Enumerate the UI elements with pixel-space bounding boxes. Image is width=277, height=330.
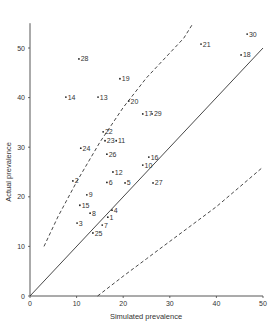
x-axis-title: Simulated prevalence bbox=[110, 312, 182, 321]
data-point: 19 bbox=[119, 75, 130, 82]
lower-bound-line bbox=[98, 167, 263, 296]
data-point: 5 bbox=[124, 179, 131, 186]
point-marker bbox=[92, 232, 94, 234]
data-point: 30 bbox=[246, 31, 257, 38]
point-label: 10 bbox=[145, 162, 153, 169]
data-point: 1 bbox=[107, 214, 114, 221]
data-point: 18 bbox=[240, 51, 251, 58]
point-label: 23 bbox=[107, 137, 115, 144]
data-point: 14 bbox=[65, 94, 76, 101]
point-label: 20 bbox=[131, 98, 139, 105]
upper-bound-line bbox=[44, 23, 193, 246]
data-point: 17 bbox=[142, 110, 153, 117]
data-point: 28 bbox=[78, 55, 89, 62]
data-point: 7 bbox=[101, 222, 108, 229]
point-label: 4 bbox=[114, 207, 118, 214]
point-label: 2 bbox=[75, 177, 79, 184]
point-marker bbox=[115, 140, 117, 142]
point-label: 3 bbox=[79, 220, 83, 227]
scatter-chart: 0102030405001020304050 12345678910111213… bbox=[0, 0, 277, 330]
y-tick-label: 30 bbox=[17, 144, 25, 151]
point-label: 19 bbox=[122, 75, 130, 82]
point-marker bbox=[111, 209, 113, 211]
point-label: 15 bbox=[82, 202, 90, 209]
x-tick-label: 10 bbox=[73, 300, 81, 307]
point-label: 5 bbox=[127, 179, 131, 186]
point-marker bbox=[104, 140, 106, 142]
point-label: 18 bbox=[243, 51, 251, 58]
data-points: 1234567891011121314151617181920212223242… bbox=[65, 31, 257, 237]
data-point: 16 bbox=[148, 154, 159, 161]
x-tick-label: 40 bbox=[213, 300, 221, 307]
chart-canvas: 0102030405001020304050 12345678910111213… bbox=[0, 0, 277, 330]
point-marker bbox=[142, 164, 144, 166]
point-marker bbox=[106, 182, 108, 184]
data-point: 21 bbox=[200, 41, 211, 48]
y-tick-label: 40 bbox=[17, 94, 25, 101]
data-point: 12 bbox=[112, 169, 123, 176]
data-point: 8 bbox=[89, 210, 96, 217]
point-label: 8 bbox=[92, 210, 96, 217]
data-point: 20 bbox=[128, 98, 139, 105]
point-label: 21 bbox=[203, 41, 211, 48]
point-label: 12 bbox=[115, 169, 123, 176]
point-marker bbox=[101, 224, 103, 226]
data-point: 10 bbox=[142, 162, 153, 169]
data-point: 23 bbox=[104, 137, 115, 144]
point-label: 11 bbox=[118, 137, 125, 144]
point-marker bbox=[102, 131, 104, 133]
point-marker bbox=[72, 180, 74, 182]
point-label: 28 bbox=[81, 55, 89, 62]
point-marker bbox=[86, 194, 88, 196]
point-label: 26 bbox=[109, 151, 117, 158]
x-tick-label: 50 bbox=[259, 300, 267, 307]
data-point: 27 bbox=[152, 179, 163, 186]
point-label: 13 bbox=[100, 94, 108, 101]
data-point: 15 bbox=[79, 202, 90, 209]
point-marker bbox=[89, 212, 91, 214]
point-label: 30 bbox=[249, 31, 257, 38]
data-point: 26 bbox=[106, 151, 117, 158]
point-marker bbox=[142, 113, 144, 115]
point-marker bbox=[119, 78, 121, 80]
point-label: 6 bbox=[109, 179, 113, 186]
point-label: 29 bbox=[154, 110, 162, 117]
y-tick-label: 0 bbox=[21, 293, 25, 300]
data-point: 22 bbox=[102, 128, 113, 135]
data-point: 6 bbox=[106, 179, 113, 186]
data-point: 9 bbox=[86, 191, 93, 198]
point-marker bbox=[78, 58, 80, 60]
point-marker bbox=[246, 33, 248, 35]
point-label: 1 bbox=[110, 214, 114, 221]
point-label: 22 bbox=[105, 128, 113, 135]
y-tick-label: 10 bbox=[17, 243, 25, 250]
y-axis-title: Actual prevalence bbox=[4, 142, 13, 202]
point-marker bbox=[112, 171, 114, 173]
point-marker bbox=[148, 156, 150, 158]
point-marker bbox=[152, 182, 154, 184]
point-label: 25 bbox=[95, 230, 103, 237]
point-label: 9 bbox=[89, 191, 93, 198]
point-marker bbox=[151, 113, 153, 115]
point-marker bbox=[80, 147, 82, 149]
x-tick-label: 0 bbox=[28, 300, 32, 307]
point-label: 14 bbox=[68, 94, 76, 101]
point-marker bbox=[107, 216, 109, 218]
point-marker bbox=[106, 153, 108, 155]
point-label: 7 bbox=[104, 222, 108, 229]
point-marker bbox=[200, 43, 202, 45]
x-tick-label: 30 bbox=[166, 300, 174, 307]
point-marker bbox=[65, 96, 67, 98]
data-point: 3 bbox=[76, 220, 83, 227]
point-marker bbox=[124, 182, 126, 184]
point-marker bbox=[76, 222, 78, 224]
y-tick-label: 20 bbox=[17, 193, 25, 200]
data-point: 2 bbox=[72, 177, 79, 184]
y-tick-label: 50 bbox=[17, 45, 25, 52]
point-marker bbox=[128, 100, 130, 102]
x-tick-label: 20 bbox=[119, 300, 127, 307]
point-label: 24 bbox=[83, 145, 91, 152]
data-point: 13 bbox=[97, 94, 108, 101]
point-marker bbox=[97, 96, 99, 98]
data-point: 24 bbox=[80, 145, 91, 152]
